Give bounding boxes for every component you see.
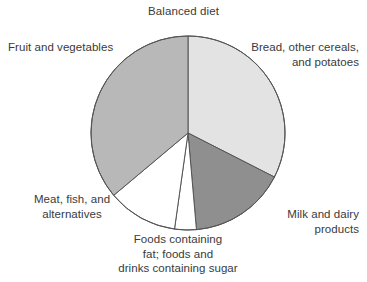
slice-label-bread-other-cereals-and-potatoes: Bread, other cereals, and potatoes [251,40,359,69]
slice-label-fruit-and-vegetables: Fruit and vegetables [8,40,113,55]
slice-label-line: Fruit and vegetables [8,40,113,55]
slice-label-line: alternatives [14,207,130,222]
slice-label-milk-and-dairy-products: Milk and dairy products [287,207,359,236]
slice-label-line: products [287,222,359,237]
slice-label-line: drinks containing sugar [107,261,249,276]
slice-label-meat-fish-and-alternatives: Meat, fish, and alternatives [14,192,130,221]
slice-label-line: Milk and dairy [287,207,359,222]
slice-label-line: and potatoes [251,55,359,70]
slice-label-line: fat; foods and [107,247,249,262]
pie-chart-figure: Balanced diet Fruit and vegetables Bread… [0,0,367,282]
slice-label-line: Foods containing [107,232,249,247]
slice-label-line: Meat, fish, and [14,192,130,207]
slice-label-foods-containing-fat-and-sugar: Foods containing fat; foods and drinks c… [107,232,249,276]
slice-label-line: Bread, other cereals, [251,40,359,55]
